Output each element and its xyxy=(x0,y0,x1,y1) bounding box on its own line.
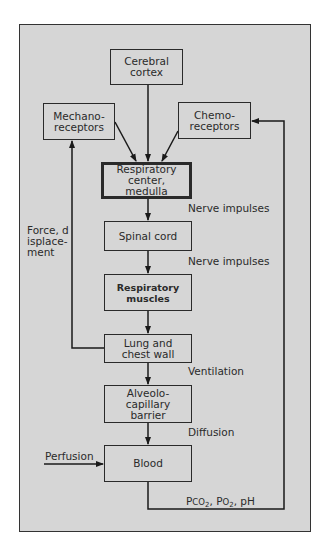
node-mechanoreceptors: Mechano-receptors xyxy=(43,103,115,140)
node-label: Mechano-receptors xyxy=(44,111,114,133)
ph-label: pH xyxy=(240,495,255,507)
label-force-displacement: Force, displace-ment xyxy=(27,225,69,258)
node-respiratory-center: Respiratory center, medulla xyxy=(101,162,192,199)
label-nerve-impulses-1: Nerve impulses xyxy=(188,203,269,214)
node-label: Spinal cord xyxy=(119,231,178,242)
node-label: Chemo-receptors xyxy=(179,110,250,132)
node-cerebral-cortex: Cerebral cortex xyxy=(110,49,183,85)
arrow-mechano-to-center xyxy=(115,122,136,161)
node-label: Respiratory muscles xyxy=(105,282,191,304)
node-label: Alveolo-capillary barrier xyxy=(105,388,191,421)
po2-sub: 2 xyxy=(229,501,233,509)
label-diffusion: Diffusion xyxy=(188,427,234,438)
label-nerve-impulses-2: Nerve impulses xyxy=(188,256,269,267)
label-blood-gases: PCO2, PO2, pH xyxy=(186,496,255,511)
pco2-co: CO xyxy=(192,497,205,507)
node-spinal-cord: Spinal cord xyxy=(104,221,192,251)
node-lung-chest-wall: Lung and chest wall xyxy=(104,334,192,363)
node-respiratory-muscles: Respiratory muscles xyxy=(104,274,192,311)
node-label: Cerebral cortex xyxy=(111,56,182,78)
label-ventilation: Ventilation xyxy=(188,366,244,377)
node-label: Lung and chest wall xyxy=(105,338,191,360)
node-blood: Blood xyxy=(104,445,192,482)
label-perfusion: Perfusion xyxy=(45,451,94,462)
feedback-lung-to-mechano xyxy=(72,141,104,348)
node-label: Blood xyxy=(133,458,163,469)
node-alveolo-capillary: Alveolo-capillary barrier xyxy=(104,385,192,423)
node-label: Respiratory center, medulla xyxy=(104,164,189,197)
pco2-sub: 2 xyxy=(205,501,209,509)
node-chemoreceptors: Chemo-receptors xyxy=(178,102,251,139)
arrow-chemo-to-center xyxy=(162,131,178,161)
